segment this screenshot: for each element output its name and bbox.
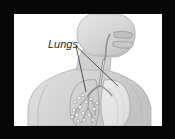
label-lungs: Lungs (48, 38, 78, 50)
nasal-cavity-shape (114, 31, 133, 38)
oral-cavity-shape (113, 41, 133, 48)
screenshot-root: Lungs (0, 0, 175, 139)
respiratory-system-illustration: Lungs (14, 14, 162, 126)
figure-panel: Lungs (14, 14, 162, 126)
